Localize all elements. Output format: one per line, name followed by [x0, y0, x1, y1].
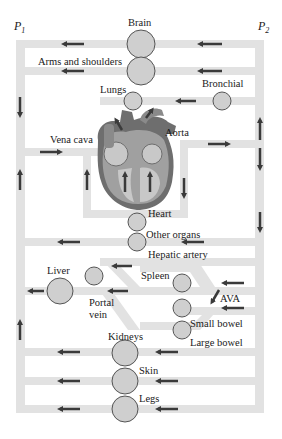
spleen-label: Spleen: [141, 270, 170, 281]
brain-label: Brain: [128, 17, 151, 28]
portal-vein-label-2: vein: [89, 309, 107, 320]
portal-organ: [85, 267, 103, 285]
kidneys-label: Kidneys: [108, 331, 143, 342]
portal-vein-label-1: Portal: [89, 297, 114, 308]
lungs-organ: [124, 92, 142, 110]
p2-sub: 2: [265, 26, 269, 35]
bronchial-organ: [213, 92, 231, 110]
ava-label: AVA: [220, 293, 240, 304]
other-organs-organ: [128, 233, 146, 251]
kidneys-organ: [112, 340, 138, 366]
small-bowel-label: Small bowel: [190, 318, 243, 329]
liver-organ: [47, 278, 73, 304]
bronchial-label: Bronchial: [202, 78, 243, 89]
arms-organ: [127, 57, 155, 85]
arms-label: Arms and shoulders: [38, 56, 122, 67]
aorta-label: Aorta: [165, 127, 189, 138]
hepatic-artery-label: Hepatic artery: [148, 249, 208, 260]
p1-sub: 1: [21, 26, 25, 35]
skin-organ: [112, 368, 138, 394]
heart-label: Heart: [148, 208, 171, 219]
lungs-label: Lungs: [100, 84, 126, 95]
small-bowel-organ: [173, 299, 191, 317]
pressure-label-p1: P1: [14, 21, 25, 36]
large-bowel-label: Large bowel: [190, 337, 243, 348]
pressure-label-p2: P2: [258, 21, 269, 36]
liver-label: Liver: [47, 265, 70, 276]
skin-label: Skin: [139, 365, 158, 376]
spleen-organ: [173, 274, 191, 292]
legs-organ: [112, 396, 138, 422]
other-organs-label: Other organs: [146, 229, 200, 240]
heart-illustration: [98, 108, 176, 210]
heart-organ: [128, 213, 146, 231]
legs-label: Legs: [139, 393, 159, 404]
brain-organ: [127, 30, 155, 58]
vena-cava-label: Vena cava: [50, 134, 93, 145]
large-bowel-organ: [173, 321, 191, 339]
